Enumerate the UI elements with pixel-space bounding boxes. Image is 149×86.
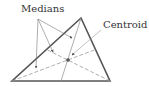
medians-pointer-2 — [38, 19, 53, 52]
median-from-right — [47, 50, 111, 82]
medians-pointer-1 — [36, 19, 38, 68]
triangle — [12, 18, 110, 81]
centroid-label: Centroid — [103, 20, 147, 30]
medians-pointer-3 — [38, 19, 72, 38]
centroid-dot — [66, 58, 70, 62]
median-from-left — [12, 50, 96, 82]
medians-label: Medians — [21, 4, 64, 14]
